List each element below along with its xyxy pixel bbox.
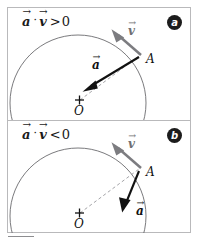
vector-v-symbol: v	[39, 127, 47, 142]
velocity-vector-arrow	[112, 29, 142, 55]
panel-a: a·v>0 A O v a a	[8, 8, 190, 120]
physics-figure: a·v>0 A O v a a	[0, 0, 199, 241]
dot-operator: ·	[34, 14, 38, 27]
panel-badge-b: b	[167, 128, 182, 143]
acceleration-vector-arrow	[83, 57, 140, 92]
velocity-label: v	[128, 138, 135, 150]
condition-formula-a: a·v>0	[22, 14, 70, 29]
point-a-label: A	[146, 166, 155, 178]
center-o-label: O	[74, 105, 84, 117]
vector-v-symbol: v	[39, 14, 47, 29]
relation-symbol: <	[50, 127, 61, 142]
vector-a-symbol: a	[22, 14, 31, 29]
relation-value: 0	[62, 14, 70, 29]
acceleration-label: a	[92, 59, 100, 71]
acceleration-label: a	[136, 205, 144, 217]
panel-divider	[7, 120, 191, 121]
dot-operator: ·	[34, 127, 38, 140]
footer-rule	[8, 236, 34, 237]
relation-symbol: >	[50, 14, 61, 29]
relation-value: 0	[62, 127, 70, 142]
condition-formula-b: a·v<0	[22, 127, 70, 142]
panel-b: a·v<0 A O v a b	[8, 121, 190, 233]
vector-a-symbol: a	[22, 127, 31, 142]
velocity-label: v	[128, 25, 135, 37]
velocity-vector-arrow	[112, 142, 142, 168]
panel-badge-a: a	[167, 15, 182, 30]
point-a-label: A	[146, 53, 155, 65]
center-o-label: O	[74, 218, 84, 230]
